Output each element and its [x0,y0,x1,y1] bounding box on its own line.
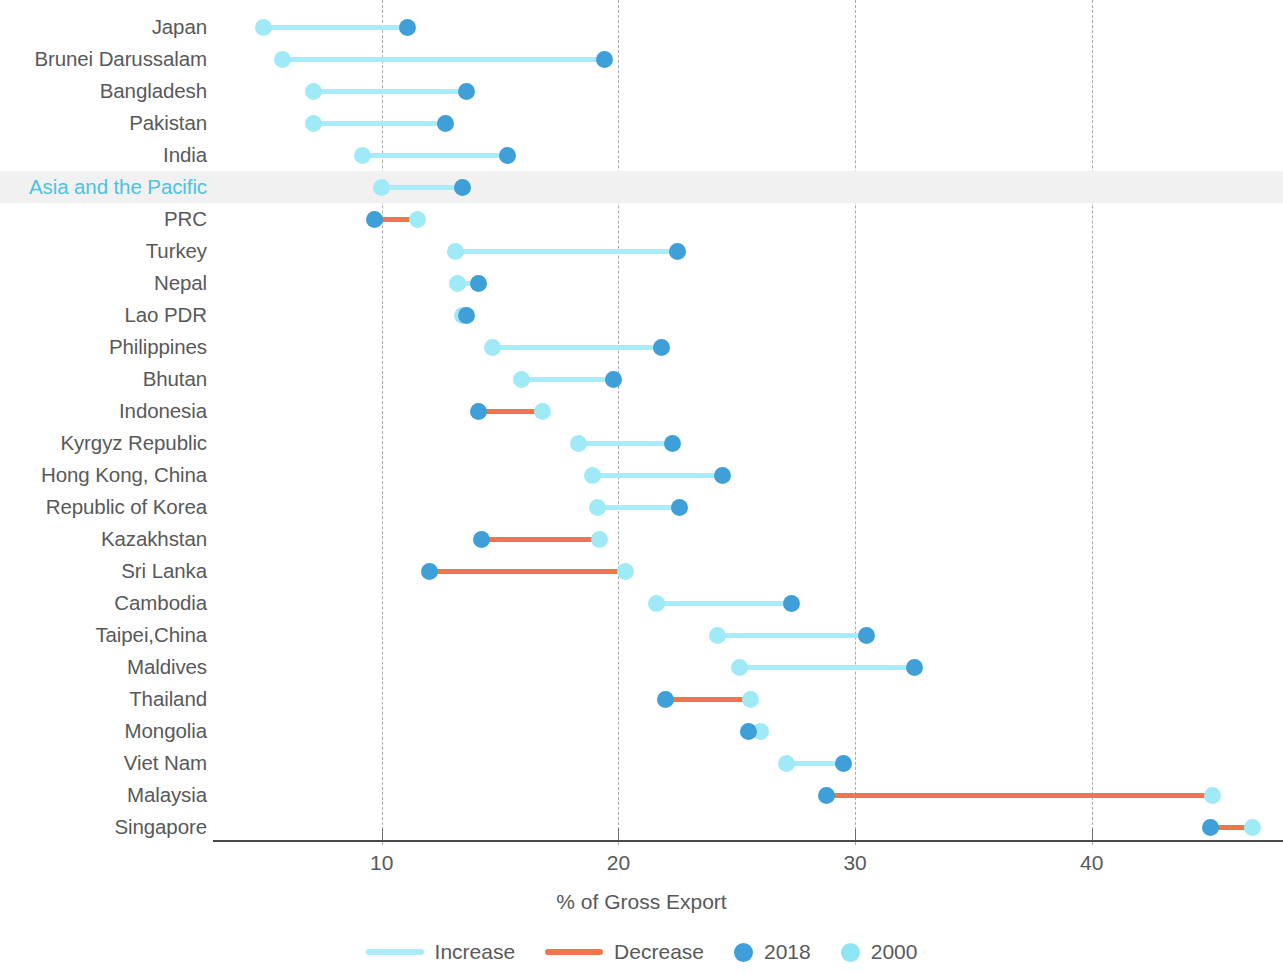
dot-2018[interactable] [437,115,454,132]
dot-2018[interactable] [421,563,438,580]
row-label: Cambodia [0,587,207,619]
dot-2018[interactable] [499,147,516,164]
row-label: Thailand [0,683,207,715]
chart-row[interactable]: Hong Kong, China [0,459,1283,491]
connector-increase [282,57,604,62]
chart-row[interactable]: Indonesia [0,395,1283,427]
dot-2000[interactable] [409,211,426,228]
dot-2018[interactable] [906,659,923,676]
row-label: Bangladesh [0,75,207,107]
chart-row[interactable]: Japan [0,11,1283,43]
chart-row[interactable]: Asia and the Pacific [0,171,1283,203]
dot-2000[interactable] [305,115,322,132]
dot-2000[interactable] [373,179,390,196]
dot-2018[interactable] [653,339,670,356]
legend-label: Increase [435,940,516,964]
dot-2000[interactable] [591,531,608,548]
x-tick-label: 30 [825,851,885,875]
chart-row[interactable]: PRC [0,203,1283,235]
dot-2000[interactable] [354,147,371,164]
dot-2000[interactable] [589,499,606,516]
chart-row[interactable]: Philippines [0,331,1283,363]
dot-2000[interactable] [274,51,291,68]
dot-2018[interactable] [473,531,490,548]
dot-2018[interactable] [740,723,757,740]
connector-increase [578,441,673,446]
connector-increase [656,601,791,606]
dot-2018[interactable] [470,403,487,420]
chart-row[interactable]: Bangladesh [0,75,1283,107]
chart-row[interactable]: Cambodia [0,587,1283,619]
dot-2018[interactable] [783,595,800,612]
dot-2018[interactable] [1202,819,1219,836]
row-label: Taipei,China [0,619,207,651]
dot-2018[interactable] [458,83,475,100]
chart-row[interactable]: Taipei,China [0,619,1283,651]
chart-row[interactable]: Maldives [0,651,1283,683]
dot-2000[interactable] [742,691,759,708]
legend-item[interactable]: 2018 [734,940,811,964]
legend-item[interactable]: Increase [366,940,516,964]
dot-2000[interactable] [1204,787,1221,804]
chart-row[interactable]: Bhutan [0,363,1283,395]
dot-2000[interactable] [570,435,587,452]
chart-row[interactable]: Lao PDR [0,299,1283,331]
dot-2018[interactable] [818,787,835,804]
chart-row[interactable]: Turkey [0,235,1283,267]
legend-item[interactable]: Decrease [545,940,704,964]
dot-2018[interactable] [669,243,686,260]
row-label: Mongolia [0,715,207,747]
chart-row[interactable]: Nepal [0,267,1283,299]
legend-label: Decrease [614,940,704,964]
row-label: PRC [0,203,207,235]
dot-2000[interactable] [731,659,748,676]
chart-row[interactable]: Brunei Darussalam [0,43,1283,75]
dot-2000[interactable] [305,83,322,100]
x-axis-title: % of Gross Export [0,890,1283,914]
dot-2000[interactable] [709,627,726,644]
chart-row[interactable]: Sri Lanka [0,555,1283,587]
dot-2018[interactable] [454,179,471,196]
dot-2018[interactable] [657,691,674,708]
dot-2000[interactable] [534,403,551,420]
chart-row[interactable]: Pakistan [0,107,1283,139]
chart-row[interactable]: Viet Nam [0,747,1283,779]
dot-2000[interactable] [447,243,464,260]
chart-row[interactable]: Republic of Korea [0,491,1283,523]
dot-2018[interactable] [366,211,383,228]
chart-row[interactable]: Singapore [0,811,1283,843]
chart-row[interactable]: India [0,139,1283,171]
dot-2000[interactable] [584,467,601,484]
dot-2018[interactable] [714,467,731,484]
dot-2018[interactable] [605,371,622,388]
row-label: Malaysia [0,779,207,811]
dot-2000[interactable] [1244,819,1261,836]
connector-increase [455,249,677,254]
connector-decrease [479,409,543,414]
row-label: Kazakhstan [0,523,207,555]
dot-2000[interactable] [484,339,501,356]
dot-2018[interactable] [458,307,475,324]
chart-row[interactable]: Mongolia [0,715,1283,747]
chart-row[interactable]: Thailand [0,683,1283,715]
dot-2000[interactable] [617,563,634,580]
dot-2018[interactable] [470,275,487,292]
dot-2018[interactable] [664,435,681,452]
chart-row[interactable]: Kyrgyz Republic [0,427,1283,459]
dot-2000[interactable] [255,19,272,36]
dot-2000[interactable] [513,371,530,388]
chart-row[interactable]: Kazakhstan [0,523,1283,555]
dot-2000[interactable] [648,595,665,612]
dot-2018[interactable] [671,499,688,516]
x-tick [382,829,383,840]
connector-increase [382,185,462,190]
dot-2018[interactable] [835,755,852,772]
connector-increase [313,121,446,126]
dot-2018[interactable] [858,627,875,644]
dot-2000[interactable] [778,755,795,772]
dot-2000[interactable] [449,275,466,292]
chart-row[interactable]: Malaysia [0,779,1283,811]
dot-2018[interactable] [399,19,416,36]
dot-2018[interactable] [596,51,613,68]
legend-item[interactable]: 2000 [841,940,918,964]
